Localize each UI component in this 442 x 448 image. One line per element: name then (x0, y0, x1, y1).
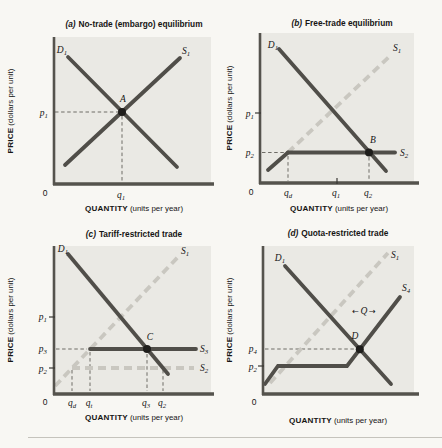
panel-c-title: (c)Tariff-restricted trade (86, 229, 183, 239)
p2-label-d: p2 (248, 362, 258, 373)
demand-label-c: D1 (57, 244, 68, 255)
q3-label-c: q3 (142, 398, 151, 409)
panel-a-no-trade: (a)No-trade (embargo) equilibrium PRICE(… (0, 0, 221, 224)
price-axis-label-a: PRICE(dollars per unit) (6, 68, 15, 153)
quantity-axis-label-c: QUANTITY(units per year) (85, 413, 183, 422)
quantity-axis-label-a: QUANTITY(units per year) (85, 204, 183, 213)
point-label-b: B (370, 135, 376, 145)
q1-label-b: q1 (332, 188, 340, 199)
origin-label-d: 0 (252, 397, 257, 407)
panel-b-free-trade: (b)Free-trade equilibrium PRICE(dollars … (221, 0, 442, 224)
point-label-d: D (351, 331, 359, 341)
panel-a-title: (a)No-trade (embargo) equilibrium (65, 19, 202, 29)
qd-label-c: qd (68, 398, 77, 409)
plot-area-a (53, 37, 211, 185)
quota-annotation-d: ←Q→ (352, 306, 376, 316)
p1-label-c: p1 (38, 312, 47, 323)
p2-label-c: p2 (38, 364, 48, 375)
p2-label-b: p2 (245, 148, 255, 159)
equilibrium-point-a (118, 108, 126, 116)
price-axis-label-c: PRICE(dollars per unit) (6, 277, 15, 362)
panel-d-title: (d)Quota-restricted trade (288, 228, 389, 238)
panel-c-tariff-trade: (c)Tariff-restricted trade PRICE(dollars… (0, 224, 221, 448)
quantity-axis-label-d: QUANTITY(units per year) (289, 416, 387, 425)
origin-label-a: 0 (43, 188, 48, 198)
origin-label-b: 0 (249, 187, 254, 197)
qt-label-c: qt (86, 398, 94, 409)
p3-label-c: p3 (38, 344, 48, 355)
q2-label-b: q2 (364, 188, 373, 199)
p1-label-b: p1 (245, 109, 254, 120)
origin-label-c: 0 (43, 397, 48, 407)
quantity-axis-label-b: QUANTITY(units per year) (290, 204, 388, 213)
page-rule (28, 437, 442, 438)
point-label-c: C (147, 332, 154, 342)
price-axis-label-b: PRICE(dollars per unit) (225, 65, 234, 150)
q1-label-a: q1 (117, 190, 125, 201)
qd-label-b: qd (284, 188, 293, 199)
panel-d-quota-trade: (d)Quota-restricted trade PRICE(dollars … (221, 224, 442, 448)
plot-area-c (53, 246, 211, 394)
figure-trade-equilibria: (a)No-trade (embargo) equilibrium PRICE(… (0, 0, 442, 448)
panel-b-title: (b)Free-trade equilibrium (291, 18, 392, 28)
price-axis-label-d: PRICE(dollars per unit) (225, 277, 234, 362)
p1-label-a: p1 (39, 108, 48, 119)
equilibrium-point-c (143, 345, 151, 353)
p4-label-d: p4 (248, 344, 258, 355)
q2-label-c: q2 (158, 398, 167, 409)
equilibrium-point-d (356, 345, 364, 353)
point-label-a: A (119, 94, 126, 104)
equilibrium-point-b (365, 149, 373, 157)
